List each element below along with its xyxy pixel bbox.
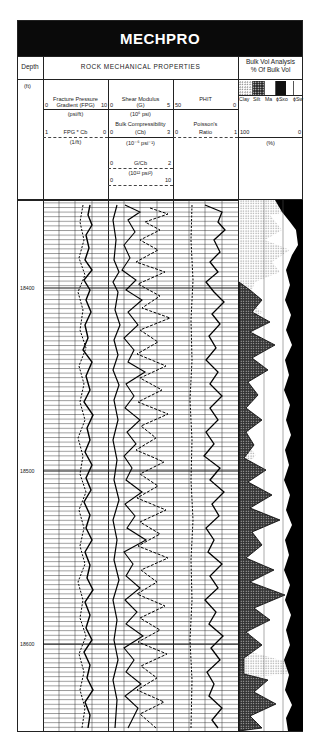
log-curves	[0, 0, 322, 753]
